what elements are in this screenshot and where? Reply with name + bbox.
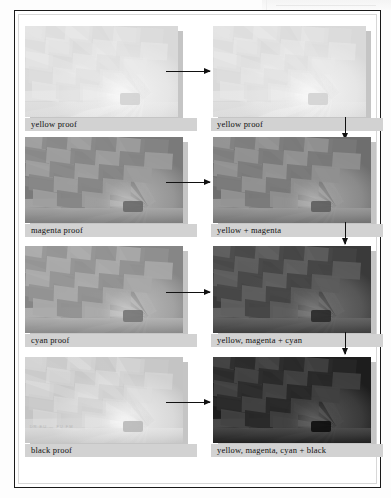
panel-yellow-magenta-cyan-right — [213, 246, 371, 333]
caption-yellow-proof-left: yellow proof — [25, 118, 197, 131]
arrow-right-row-yellow — [166, 71, 210, 72]
balloon-interior-photo — [213, 246, 371, 333]
balloon-crown-panel — [56, 82, 83, 103]
scan-edge-artifact — [262, 0, 391, 10]
caption-yellow-proof-right: yellow proof — [211, 118, 383, 131]
panel-magenta-proof-left — [25, 137, 183, 223]
balloon-basket-silhouette — [308, 93, 328, 105]
balloon-basket-silhouette — [311, 201, 332, 212]
panel-yellow-proof-left — [25, 26, 178, 117]
proof-image-yellow-magenta-cyan — [213, 246, 371, 333]
balloon-interior-photo — [25, 137, 183, 223]
panel-cyan-proof-left — [25, 246, 183, 333]
arrow-down-after-magenta — [345, 222, 346, 244]
ground-horizon-strip — [213, 318, 371, 333]
balloon-crown-panel — [245, 410, 273, 430]
caption-cyan-proof-left: cyan proof — [25, 334, 197, 347]
caption-yellow-magenta: yellow + magenta — [211, 224, 383, 237]
ground-horizon-strip — [25, 318, 183, 333]
proof-image-yellow — [25, 26, 178, 117]
proof-image-yellow-magenta-cyan-black — [213, 357, 371, 443]
arrow-down-after-yellow — [345, 117, 346, 139]
balloon-interior-photo — [25, 26, 178, 117]
proof-image-black: DR EU — FU FM — [25, 357, 183, 443]
plate-registration-marks: DR EU — FU FM — [30, 424, 74, 429]
ground-horizon-strip — [213, 428, 371, 443]
panel-black-proof-left: DR EU — FU FM — [25, 357, 183, 443]
ground-horizon-strip — [213, 102, 366, 117]
balloon-interior-photo — [213, 137, 371, 223]
arrow-right-row-cyan — [166, 292, 210, 293]
panel-full-colour-right — [213, 357, 371, 443]
balloon-interior-photo: DR EU — FU FM — [25, 357, 183, 443]
panel-yellow-proof-right — [213, 26, 366, 117]
balloon-interior-photo — [213, 357, 371, 443]
arrow-right-row-black — [166, 402, 210, 403]
scan-edge-line-vertical — [266, 0, 267, 10]
panel-yellow-magenta-right — [213, 137, 371, 223]
balloon-basket-silhouette — [123, 201, 144, 212]
caption-magenta-proof-left: magenta proof — [25, 224, 197, 237]
arrow-right-row-magenta — [166, 182, 210, 183]
balloon-basket-silhouette — [123, 421, 144, 432]
proof-image-yellow-magenta — [213, 137, 371, 223]
balloon-basket-silhouette — [120, 93, 140, 105]
arrow-down-after-cyan — [345, 332, 346, 354]
ground-horizon-strip — [25, 428, 183, 443]
balloon-interior-photo — [213, 26, 366, 117]
caption-black-proof-left: black proof — [25, 444, 197, 457]
balloon-crown-panel — [57, 190, 85, 210]
proof-image-cyan — [25, 246, 183, 333]
figure-page: yellow proof yellow proof magenta proof … — [0, 0, 391, 498]
ground-horizon-strip — [213, 208, 371, 223]
balloon-crown-panel — [244, 82, 271, 103]
ground-horizon-strip — [25, 208, 183, 223]
balloon-basket-silhouette — [123, 310, 144, 321]
balloon-basket-silhouette — [311, 310, 332, 321]
balloon-interior-photo — [25, 246, 183, 333]
scan-edge-line-horizontal — [276, 5, 376, 6]
caption-full-colour: yellow, magenta, cyan + black — [211, 444, 383, 457]
ground-horizon-strip — [25, 102, 178, 117]
proof-image-yellow — [213, 26, 366, 117]
balloon-crown-panel — [245, 190, 273, 210]
balloon-basket-silhouette — [311, 421, 332, 432]
proof-image-magenta — [25, 137, 183, 223]
caption-yellow-magenta-cyan: yellow, magenta + cyan — [211, 334, 383, 347]
